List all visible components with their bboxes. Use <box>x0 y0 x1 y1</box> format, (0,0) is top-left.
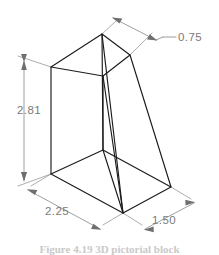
dimension-lines <box>21 17 195 232</box>
dimension-text-base-depth: 1.50 <box>152 214 176 226</box>
dimension-text-height: 2.81 <box>17 104 41 116</box>
incline-right-edge <box>130 55 171 187</box>
dimension-text-top-width: 0.75 <box>178 31 202 43</box>
bottom-face-edge <box>51 150 171 213</box>
top-face-edge <box>51 34 130 76</box>
figure-canvas: 0.75 2.81 2.25 1.50 Figure 4.19 3D picto… <box>0 0 219 255</box>
leader-line-top-width <box>156 37 163 40</box>
figure-caption: Figure 4.19 3D pictorial block <box>0 243 219 255</box>
wedge-solid-outline <box>51 34 171 213</box>
dimension-text-base-length: 2.25 <box>45 205 69 217</box>
incline-front-edge <box>102 34 123 213</box>
technical-drawing-svg: 0.75 2.81 2.25 1.50 <box>0 0 219 255</box>
inner-slope-edge <box>103 76 123 213</box>
